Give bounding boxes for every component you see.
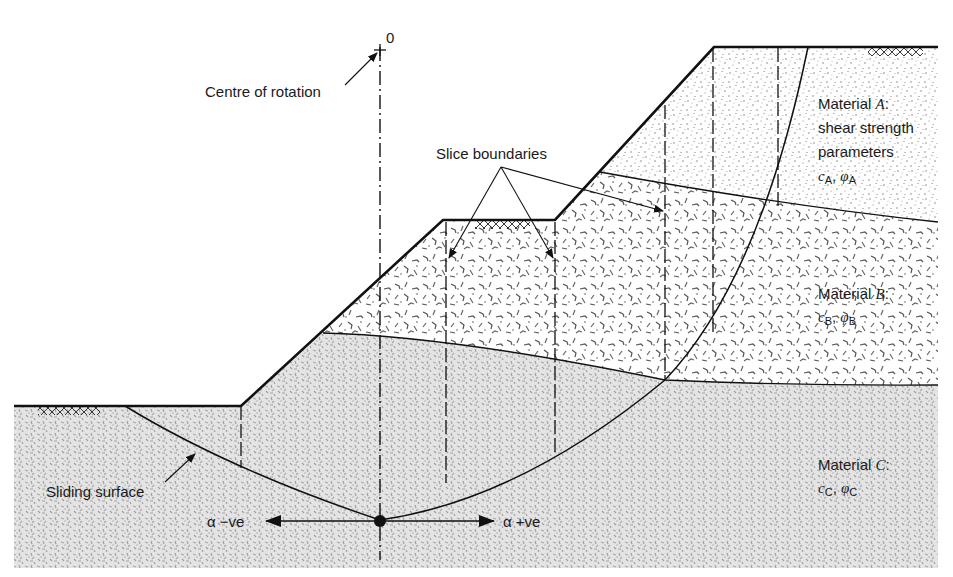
svg-text:parameters: parameters [818, 143, 894, 160]
svg-text:Material A:: Material A: [818, 95, 889, 112]
slice-boundaries-label: Slice boundaries [436, 145, 547, 162]
ground-hatch-left [38, 407, 100, 415]
origin-label: 0 [386, 29, 394, 46]
slope-stability-diagram: 0 Centre of rotation Slice boundaries Sl… [0, 0, 953, 577]
svg-text:Material B:: Material B: [818, 285, 889, 302]
sliding-surface-label: Sliding surface [46, 483, 144, 500]
alpha-positive-label: α +ve [503, 513, 540, 530]
centre-of-rotation-label: Centre of rotation [205, 83, 321, 100]
centre-of-rotation-arrow [345, 53, 377, 85]
svg-text:Material C:: Material C: [818, 456, 890, 473]
rotation-reference-point [374, 515, 386, 527]
alpha-negative-label: α −ve [207, 513, 244, 530]
svg-text:shear strength: shear strength [818, 119, 914, 136]
ground-hatch-top [868, 48, 923, 56]
ground-hatch-bench [475, 221, 530, 229]
